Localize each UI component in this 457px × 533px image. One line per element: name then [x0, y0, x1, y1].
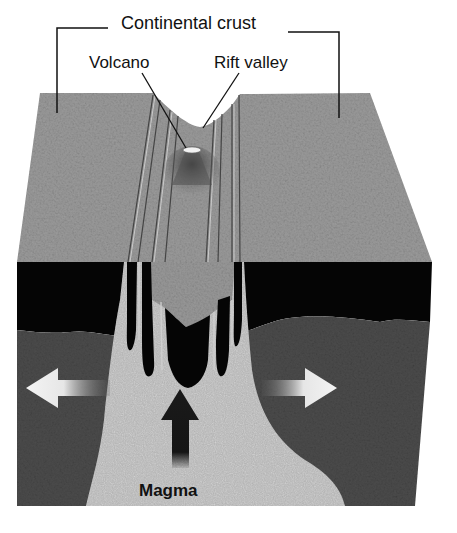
crust-top-surface: [17, 93, 432, 262]
rift-valley-label: Rift valley: [214, 54, 288, 71]
rift-diagram: Continental crust Volcano Rift valley Ma…: [0, 0, 457, 533]
volcano-label: Volcano: [89, 54, 150, 71]
magma-label: Magma: [139, 482, 198, 499]
continental-crust-label: Continental crust: [117, 14, 260, 32]
block-diagram-graphic: [0, 0, 457, 533]
